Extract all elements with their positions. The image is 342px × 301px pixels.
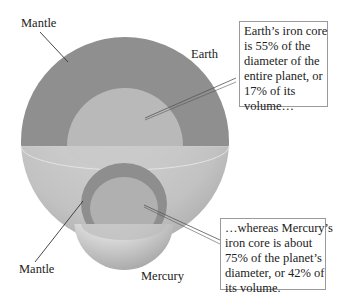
callout-line: 17% of its — [244, 84, 323, 99]
callout-line: iron core is about — [225, 236, 321, 251]
callout-earth-core: Earth’s iron core is 55% of the diameter… — [239, 21, 328, 107]
callout-line: …whereas Mercury’s — [225, 221, 321, 236]
callout-line: diameter of the — [244, 54, 323, 69]
callout-line: is 55% of the — [244, 39, 323, 54]
callout-line: diameter, or 42% of — [225, 266, 321, 281]
callout-mercury-core: …whereas Mercury’s iron core is about 75… — [220, 218, 326, 290]
callout-line: 75% of the planet’s — [225, 251, 321, 266]
callout-line: its volume. — [225, 281, 321, 296]
callout-line: volume… — [244, 99, 323, 114]
leader-mantle-top — [40, 32, 68, 62]
callout-line: entire planet, or — [244, 69, 323, 84]
callout-line: Earth’s iron core — [244, 24, 323, 39]
label-mantle-earth: Mantle — [21, 17, 56, 30]
label-mercury: Mercury — [141, 270, 184, 283]
label-earth: Earth — [191, 48, 218, 61]
label-mantle-mercury: Mantle — [19, 263, 54, 276]
